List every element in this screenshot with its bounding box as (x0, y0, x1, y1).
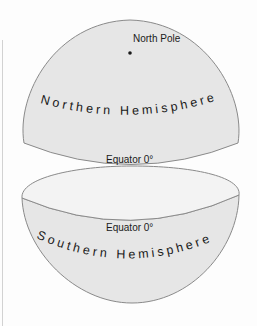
hemispheres-diagram: North Pole Northern Hemisphere Equator 0… (0, 0, 257, 326)
hemispheres-illustration: North Pole Northern Hemisphere Equator 0… (0, 0, 257, 326)
equator-label-south: Equator 0° (106, 222, 153, 233)
north-pole-dot-icon (128, 51, 132, 55)
equator-label-north: Equator 0° (106, 154, 153, 165)
north-pole-label: North Pole (133, 33, 181, 44)
